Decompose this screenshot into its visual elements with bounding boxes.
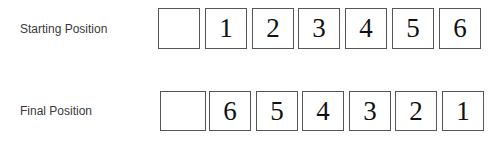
- final-cell-1: 1: [442, 91, 484, 131]
- final-cell-4: 4: [302, 91, 344, 131]
- final-cell-2: 2: [395, 91, 437, 131]
- start-cell-empty: [158, 8, 200, 49]
- starting-position-label: Starting Position: [20, 22, 107, 36]
- final-position-label: Final Position: [20, 104, 92, 118]
- start-cell-4: 4: [345, 8, 387, 49]
- start-cell-1: 1: [205, 8, 247, 49]
- start-cell-5: 5: [392, 8, 434, 49]
- final-cell-3: 3: [349, 91, 391, 131]
- start-cell-6: 6: [439, 8, 481, 49]
- start-cell-3: 3: [298, 8, 340, 49]
- final-cell-empty: [160, 91, 206, 131]
- final-cell-5: 5: [256, 91, 298, 131]
- final-cell-6: 6: [209, 91, 251, 131]
- start-cell-2: 2: [252, 8, 294, 49]
